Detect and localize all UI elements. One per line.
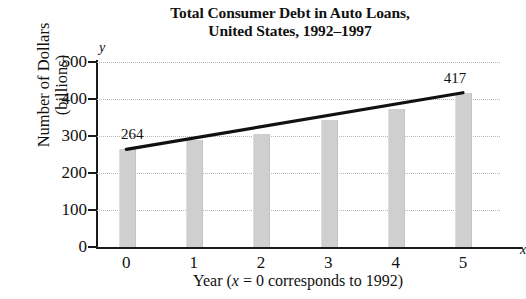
bar	[119, 149, 136, 247]
y-axis-variable: y	[99, 40, 105, 56]
chart-title-line-1: Total Consumer Debt in Auto Loans,	[90, 4, 490, 22]
y-axis-tick-label: 200	[62, 163, 88, 183]
x-axis-line	[96, 247, 500, 249]
data-point-label: 264	[121, 126, 144, 143]
x-axis-label-prefix: Year (	[193, 272, 232, 289]
x-axis-label-variable: x	[232, 272, 239, 289]
y-axis-tick	[88, 61, 97, 63]
x-axis-label-suffix: = 0 corresponds to 1992)	[239, 272, 403, 289]
x-axis-tick-label: 5	[459, 253, 468, 273]
x-axis-tick-label: 3	[324, 253, 333, 273]
bar	[388, 109, 405, 247]
y-axis-tick-label: 300	[62, 126, 88, 146]
gridline	[97, 173, 500, 174]
y-axis-line	[96, 60, 98, 249]
x-axis-tick-label: 2	[257, 253, 266, 273]
trend-line	[96, 62, 500, 249]
x-axis-tick-label: 0	[122, 253, 131, 273]
y-axis-tick-label: 500	[62, 52, 88, 72]
y-axis-tick	[88, 172, 97, 174]
x-axis-extension	[500, 247, 522, 249]
y-axis-tick-label: 400	[62, 89, 88, 109]
chart-title: Total Consumer Debt in Auto Loans, Unite…	[90, 4, 490, 41]
y-axis-tick	[88, 135, 97, 137]
bar	[455, 93, 472, 247]
gridline	[97, 210, 500, 211]
data-point-label: 417	[444, 70, 467, 87]
x-axis-tick-label: 4	[391, 253, 400, 273]
y-axis-label-line-1: Number of Dollars	[35, 23, 53, 148]
bar	[186, 140, 203, 247]
x-axis-label: Year (x = 0 corresponds to 1992)	[96, 272, 500, 290]
chart-title-line-2: United States, 1992–1997	[90, 22, 490, 40]
bar	[321, 120, 338, 247]
x-axis-tick-label: 1	[189, 253, 198, 273]
gridline	[97, 99, 500, 100]
y-axis-tick-label: 0	[79, 237, 88, 257]
bar	[253, 134, 270, 247]
plot-area: y x 0100200300400500 264417 012345	[96, 62, 500, 249]
y-axis-tick	[88, 246, 97, 248]
gridline	[97, 136, 500, 137]
y-axis-tick-label: 100	[62, 200, 88, 220]
x-axis-variable: x	[520, 242, 526, 258]
y-axis-tick	[88, 98, 97, 100]
y-axis-tick	[88, 209, 97, 211]
gridline	[97, 62, 500, 63]
